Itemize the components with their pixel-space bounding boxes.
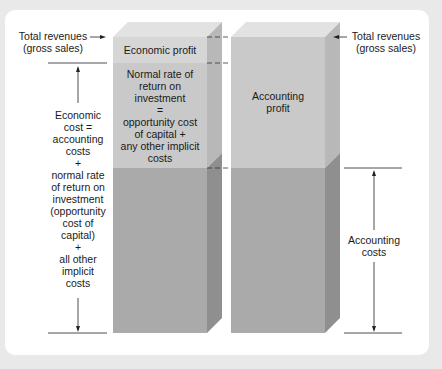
accounting-costs-arrow-down [372,262,376,332]
label-line: implicit [44,265,112,277]
accounting-costs-label: Accounting costs [344,234,404,258]
label-line: Economic [44,109,112,121]
label-line: costs [110,152,210,164]
right-total-revenues-label: Total revenues (gross sales) [344,30,428,54]
label-line: costs [344,246,404,258]
label-line: + [44,241,112,253]
label-line: costs [44,277,112,289]
label-line: = [110,104,210,116]
label-line: investment [110,92,210,104]
label-line: of return on [44,181,112,193]
label-line: accounting [44,133,112,145]
label-line: + [44,157,112,169]
label-line: (gross sales) [344,42,428,54]
label-line: Accounting [231,90,325,102]
label-line: of capital + [110,128,210,140]
label-line: Total revenues [14,30,92,42]
label-line: opportunity cost [110,116,210,128]
label-line: costs [44,145,112,157]
label-line: normal rate [44,169,112,181]
label-line: Economic profit [113,44,207,56]
segment-accounting-costs [231,168,325,333]
accounting-bar-side-lower [325,153,340,333]
label-line: any other implicit [110,140,210,152]
accounting-costs-arrow-up [372,170,376,230]
label-line: cost = [44,121,112,133]
label-line: all other [44,253,112,265]
label-line: Accounting [344,234,404,246]
accounting-bar-top-face [231,22,340,37]
left-total-revenues-label: Total revenues (gross sales) [14,30,92,54]
label-line: investment [44,193,112,205]
label-line: profit [231,102,325,114]
label-line: (opportunity [44,205,112,217]
economic-cost-label: Economiccost =accountingcosts+normal rat… [44,109,112,289]
accounting-profit-label: Accountingprofit [231,90,325,114]
normal-return-label: Normal rate ofreturn oninvestment=opport… [110,68,210,164]
label-line: Total revenues [344,30,428,42]
economic-bar-side-lower [207,153,222,333]
economic-cost-arrow-down [76,298,80,332]
label-line: (gross sales) [14,42,92,54]
economic-cost-arrow-up [76,66,80,103]
label-line: return on [110,80,210,92]
left-revenue-arrow [90,35,106,39]
segment-economic-costs [113,168,207,333]
accounting-bar-side-upper [325,22,340,168]
label-line: cost of [44,217,112,229]
label-line: capital) [44,229,112,241]
economic-bar-top-face [113,22,222,37]
accounting-bar [231,22,340,333]
label-line: Normal rate of [110,68,210,80]
economic-profit-label: Economic profit [113,44,207,56]
